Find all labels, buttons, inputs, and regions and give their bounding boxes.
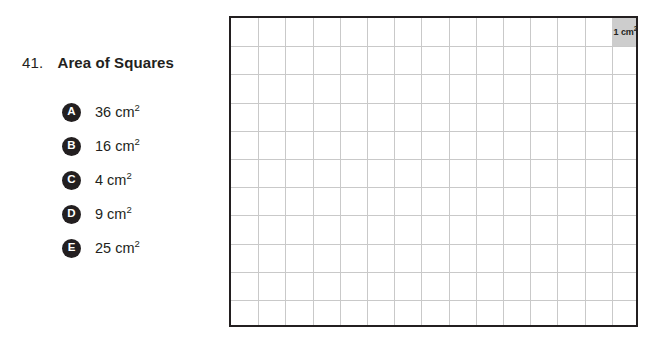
grid-line-horizontal <box>231 74 636 75</box>
option-label-d: 9 cm2 <box>95 206 132 222</box>
option-bullet-c: C <box>62 171 81 190</box>
page-title: Area of Squares <box>57 54 174 71</box>
option-exponent-c: 2 <box>126 170 131 181</box>
worksheet-page: 41. Area of Squares A 36 cm2 B 16 cm2 C … <box>0 0 658 341</box>
unit-square-cell: 1 cm2 <box>612 18 636 46</box>
grid-line-vertical <box>503 18 504 325</box>
grid-line-vertical <box>285 18 286 325</box>
option-value-e: 25 <box>95 240 111 256</box>
option-bullet-a: A <box>62 103 81 122</box>
grid-line-vertical <box>367 18 368 325</box>
grid-line-horizontal <box>231 244 636 245</box>
grid-line-horizontal <box>231 46 636 47</box>
grid-line-vertical <box>612 18 613 325</box>
answer-options-list: A 36 cm2 B 16 cm2 C 4 cm2 D 9 cm2 E 25 c… <box>62 95 212 265</box>
grid-line-horizontal <box>231 131 636 132</box>
answer-option-d[interactable]: D 9 cm2 <box>62 197 212 231</box>
grid-line-horizontal <box>231 215 636 216</box>
option-unit-c: cm <box>107 172 126 188</box>
unit-square-label: 1 cm2 <box>614 27 636 37</box>
option-unit-a: cm <box>115 104 134 120</box>
grid-line-horizontal <box>231 103 636 104</box>
grid-line-vertical <box>340 18 341 325</box>
option-label-e: 25 cm2 <box>95 240 140 256</box>
option-label-c: 4 cm2 <box>95 172 132 188</box>
grid-line-horizontal <box>231 159 636 160</box>
option-bullet-e: E <box>62 239 81 258</box>
question-number: 41. <box>22 54 43 71</box>
grid-line-vertical <box>394 18 395 325</box>
option-exponent-e: 2 <box>135 238 140 249</box>
grid-line-horizontal <box>231 300 636 301</box>
option-bullet-b: B <box>62 137 81 156</box>
question-heading: 41. Area of Squares <box>22 54 174 71</box>
option-unit-d: cm <box>107 206 126 222</box>
option-unit-b: cm <box>115 138 134 154</box>
unit-square-unit: cm <box>621 27 634 37</box>
option-value-d: 9 <box>95 206 103 222</box>
unit-square-exponent: 2 <box>634 25 636 32</box>
option-bullet-d: D <box>62 205 81 224</box>
grid-line-horizontal <box>231 187 636 188</box>
option-exponent-b: 2 <box>135 136 140 147</box>
answer-option-a[interactable]: A 36 cm2 <box>62 95 212 129</box>
centimeter-grid[interactable]: 1 cm2 <box>229 16 638 327</box>
grid-line-vertical <box>421 18 422 325</box>
grid-line-vertical <box>557 18 558 325</box>
option-value-a: 36 <box>95 104 111 120</box>
grid-inner: 1 cm2 <box>231 18 636 325</box>
option-value-b: 16 <box>95 138 111 154</box>
answer-option-b[interactable]: B 16 cm2 <box>62 129 212 163</box>
answer-option-e[interactable]: E 25 cm2 <box>62 231 212 265</box>
grid-line-vertical <box>585 18 586 325</box>
grid-line-vertical <box>449 18 450 325</box>
grid-line-vertical <box>313 18 314 325</box>
option-value-c: 4 <box>95 172 103 188</box>
option-label-a: 36 cm2 <box>95 104 140 120</box>
grid-line-vertical <box>476 18 477 325</box>
answer-option-c[interactable]: C 4 cm2 <box>62 163 212 197</box>
grid-line-vertical <box>258 18 259 325</box>
grid-line-vertical <box>530 18 531 325</box>
question-block: 41. Area of Squares A 36 cm2 B 16 cm2 C … <box>0 0 222 341</box>
option-label-b: 16 cm2 <box>95 138 140 154</box>
unit-square-value: 1 <box>614 27 619 37</box>
option-unit-e: cm <box>115 240 134 256</box>
option-exponent-a: 2 <box>135 102 140 113</box>
grid-line-horizontal <box>231 272 636 273</box>
option-exponent-d: 2 <box>126 204 131 215</box>
